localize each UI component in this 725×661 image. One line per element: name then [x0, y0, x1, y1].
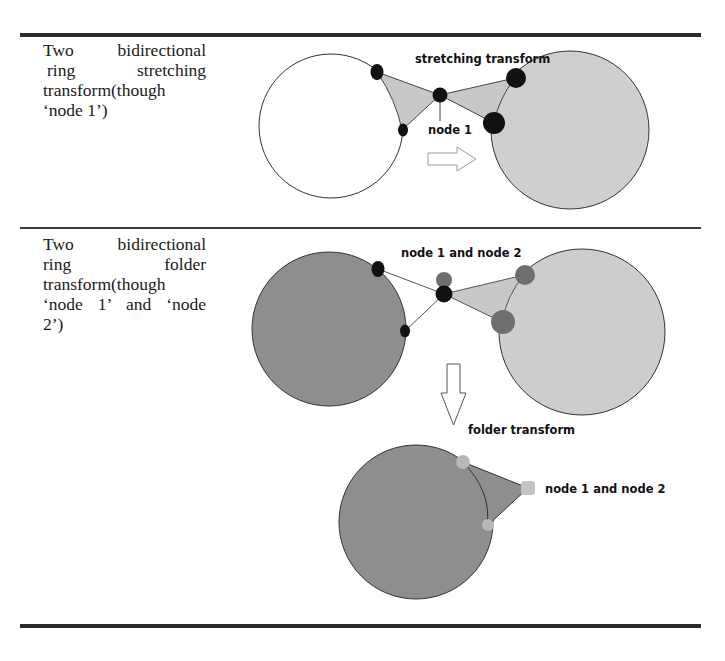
node-icon — [398, 124, 408, 137]
merged-node-icon — [521, 481, 535, 495]
row-1-figure: stretching transform node 1 — [259, 51, 649, 209]
node-icon — [515, 265, 535, 285]
node-1-and-node-2-label: node 1 and node 2 — [401, 246, 521, 260]
node-icon — [371, 64, 384, 80]
node-1-icon — [433, 88, 448, 103]
node-icon — [483, 112, 505, 134]
node-icon — [506, 68, 526, 88]
row-2-figure: node 1 and node 2 folder transform node … — [252, 246, 665, 599]
stretching-transform-label: stretching transform — [415, 52, 550, 66]
node-1-icon — [436, 286, 453, 303]
node-icon — [372, 261, 385, 277]
diagram-canvas: stretching transform node 1 node 1 and n… — [0, 0, 725, 661]
folder-transform-label: folder transform — [468, 423, 575, 437]
node-icon — [400, 325, 410, 338]
node-icon — [491, 310, 515, 334]
left-ring — [252, 252, 406, 406]
node-icon — [456, 455, 470, 469]
result-node-label: node 1 and node 2 — [545, 482, 665, 496]
node-icon — [482, 519, 494, 531]
right-arrow-icon — [428, 147, 476, 171]
down-arrow-icon — [441, 364, 466, 425]
node-1-label: node 1 — [428, 123, 472, 137]
